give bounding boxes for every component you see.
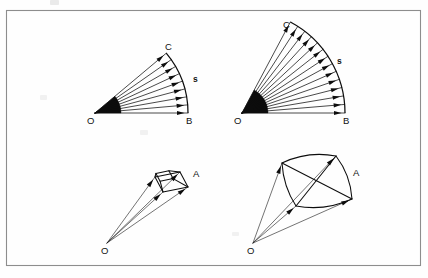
figure-canvas: O B C s O B C s O A O A [0,0,428,278]
label-area-A: A [193,168,200,179]
label-origin-O: O [247,245,254,256]
label-arc-s: s [337,56,342,66]
label-point-B: B [343,115,349,126]
label-point-B: B [186,115,192,126]
label-origin-O: O [101,245,108,256]
label-point-C: C [283,19,290,30]
page-background [0,0,428,278]
label-origin-O: O [87,115,94,126]
label-point-C: C [165,41,172,52]
label-origin-O: O [234,115,241,126]
solid-angle-figure: O B C s O B C s O A O A [0,0,428,278]
label-area-A: A [353,167,360,178]
label-arc-s: s [193,74,198,84]
